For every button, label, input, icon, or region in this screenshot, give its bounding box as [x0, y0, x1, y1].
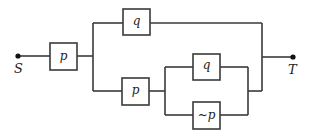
circuit-diagram: S T p q p q ~p: [0, 0, 310, 138]
switch-label: ~p: [198, 108, 216, 122]
terminal-s-dot: [15, 53, 20, 58]
switch-label: q: [133, 14, 141, 28]
switch-2: q: [123, 9, 150, 35]
switch-label: p: [132, 83, 140, 97]
terminal-t-label: T: [288, 62, 298, 77]
terminal-t-dot: [290, 54, 295, 59]
terminal-s-label: S: [14, 61, 23, 76]
switch-5: ~p: [193, 102, 220, 129]
switch-3: p: [122, 78, 149, 105]
switch-1: p: [50, 43, 77, 70]
switch-4: q: [193, 54, 220, 80]
switch-label: q: [203, 58, 211, 72]
switch-label: p: [60, 49, 68, 63]
